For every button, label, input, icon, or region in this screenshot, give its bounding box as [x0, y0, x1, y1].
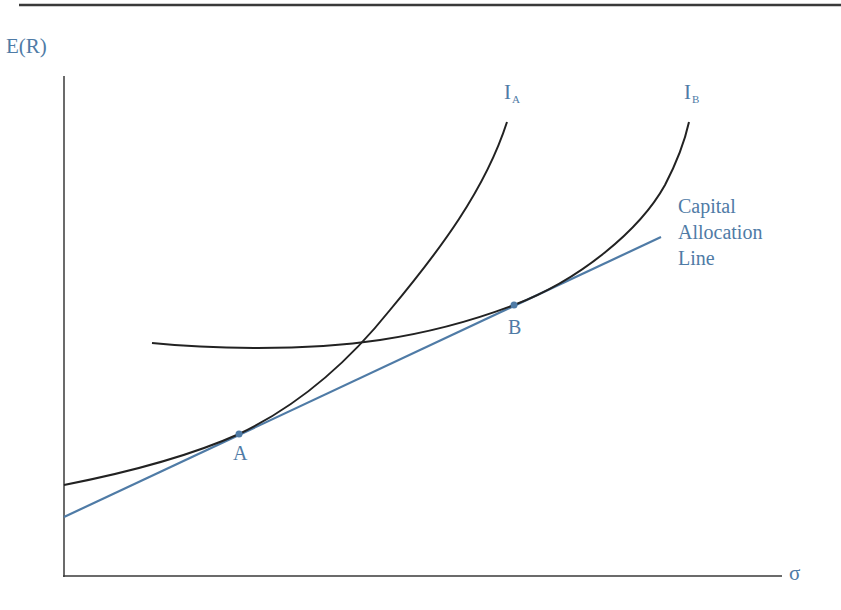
indifference-curve-a-label: IA — [504, 82, 520, 105]
indifference-curve-a — [64, 122, 507, 485]
curve-b-label-sub: B — [692, 93, 699, 105]
point-b-marker — [511, 302, 518, 309]
cal-label-line-1: Capital — [678, 193, 762, 219]
capital-allocation-line-label: Capital Allocation Line — [678, 193, 762, 271]
curve-a-label-sub: A — [512, 93, 520, 105]
diagram-canvas — [0, 0, 841, 610]
x-axis-label: σ — [789, 563, 800, 584]
cal-label-line-3: Line — [678, 245, 762, 271]
curve-a-label-main: I — [504, 80, 511, 104]
curve-b-label-main: I — [684, 80, 691, 104]
point-b-label: B — [508, 317, 521, 337]
capital-allocation-line — [64, 237, 661, 517]
point-a-label: A — [233, 443, 247, 463]
indifference-curve-b — [152, 122, 689, 348]
indifference-curve-b-label: IB — [684, 82, 699, 105]
cal-label-line-2: Allocation — [678, 219, 762, 245]
point-a-marker — [236, 431, 243, 438]
y-axis-label: E(R) — [6, 36, 47, 57]
